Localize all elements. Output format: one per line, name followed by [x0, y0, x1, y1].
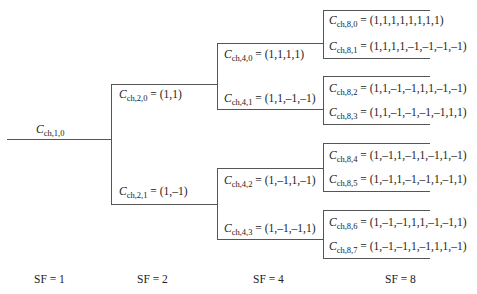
code-value: = (1,–1,–1,1,–1,1,1,–1): [357, 240, 466, 252]
code-label-ch-8-6: Cch,8,6 = (1,–1,–1,1,1,–1,–1,1): [329, 215, 466, 233]
branch-line-ch-8-0: [323, 10, 430, 11]
code-value: = (1,1,–1,–1,–1,–1,1,1): [357, 106, 466, 118]
code-value: = (1,–1,1,–1,1,–1,1,–1): [357, 149, 466, 161]
code-value: = (1,–1): [147, 185, 187, 197]
code-value: = (1,–1,–1,1): [252, 222, 315, 234]
code-label-ch-2-0: Cch,2,0 = (1,1): [119, 87, 182, 105]
code-symbol: C: [224, 92, 232, 104]
code-subscript: ch,8,2: [337, 87, 358, 97]
code-symbol: C: [224, 48, 232, 60]
branch-line-ch-8-3: [323, 124, 430, 125]
code-label-ch-8-7: Cch,8,7 = (1,–1,–1,1,–1,1,1,–1): [329, 239, 466, 257]
split-line-sf2: [111, 84, 112, 205]
code-value: = (1,–1,1,–1,–1,1,–1,1): [357, 173, 466, 185]
code-label-ch-8-1: Cch,8,1 = (1,1,1,1,–1,–1,–1,–1): [329, 39, 466, 57]
branch-line-ch-8-6: [323, 210, 430, 211]
branch-line-ch-4-0: [217, 43, 323, 44]
branch-line-ch-4-3: [217, 239, 323, 240]
code-symbol: C: [36, 123, 44, 135]
branch-line-ch-8-4: [323, 143, 430, 144]
branch-line-ch-2-1: [111, 204, 217, 205]
code-symbol: C: [329, 40, 337, 52]
code-label-ch-8-2: Cch,8,2 = (1,1,–1,–1,1,1,–1,–1): [329, 81, 466, 99]
code-symbol: C: [119, 88, 127, 100]
code-subscript: ch,8,3: [337, 111, 358, 121]
code-value: = (1,–1,1,–1): [252, 174, 315, 186]
code-symbol: C: [329, 106, 337, 118]
code-symbol: C: [329, 82, 337, 94]
sf-label-4: SF = 4: [253, 273, 284, 285]
code-value: = (1,1,–1,–1,1,1,–1,–1): [357, 82, 466, 94]
code-label-ch-8-0: Cch,8,0 = (1,1,1,1,1,1,1,1): [329, 13, 443, 31]
code-value: = (1,–1,–1,1,1,–1,–1,1): [357, 216, 466, 228]
code-subscript: ch,2,1: [127, 190, 148, 200]
code-label-ch-1-0: Cch,1,0: [36, 122, 64, 140]
branch-line-ch-8-7: [323, 258, 430, 259]
code-value: = (1,1,–1,–1): [252, 92, 315, 104]
code-value: = (1,1): [147, 88, 181, 100]
code-label-ch-4-1: Cch,4,1 = (1,1,–1,–1): [224, 91, 315, 109]
code-label-ch-8-5: Cch,8,5 = (1,–1,1,–1,–1,1,–1,1): [329, 172, 466, 190]
code-subscript: ch,8,7: [337, 245, 358, 255]
split-line-sf4-a: [217, 43, 218, 110]
branch-line-ch-8-2: [323, 76, 430, 77]
code-symbol: C: [329, 240, 337, 252]
sf-label-2: SF = 2: [137, 273, 168, 285]
code-symbol: C: [329, 173, 337, 185]
code-symbol: C: [329, 216, 337, 228]
code-subscript: ch,4,0: [232, 53, 253, 63]
code-value: = (1,1,1,1,1,1,1,1): [357, 14, 443, 26]
code-subscript: ch,8,5: [337, 178, 358, 188]
code-label-ch-8-3: Cch,8,3 = (1,1,–1,–1,–1,–1,1,1): [329, 105, 466, 123]
code-subscript: ch,1,0: [44, 128, 65, 138]
code-subscript: ch,4,1: [232, 97, 253, 107]
split-line-sf8-b: [323, 76, 324, 125]
branch-line-ch-4-2: [217, 168, 323, 169]
code-label-ch-4-0: Cch,4,0 = (1,1,1,1): [224, 47, 304, 65]
branch-line-ch-8-5: [323, 191, 430, 192]
split-line-sf8-a: [323, 10, 324, 59]
code-value: = (1,1,1,1): [252, 48, 304, 60]
code-value: = (1,1,1,1,–1,–1,–1,–1): [357, 40, 466, 52]
code-subscript: ch,4,2: [232, 179, 253, 189]
code-subscript: ch,8,1: [337, 45, 358, 55]
code-label-ch-8-4: Cch,8,4 = (1,–1,1,–1,1,–1,1,–1): [329, 148, 466, 166]
code-subscript: ch,2,0: [127, 93, 148, 103]
code-symbol: C: [329, 14, 337, 26]
code-subscript: ch,8,4: [337, 154, 358, 164]
code-label-ch-2-1: Cch,2,1 = (1,–1): [119, 184, 187, 202]
code-label-ch-4-3: Cch,4,3 = (1,–1,–1,1): [224, 221, 315, 239]
code-symbol: C: [224, 174, 232, 186]
code-symbol: C: [119, 185, 127, 197]
code-subscript: ch,8,6: [337, 221, 358, 231]
code-subscript: ch,4,3: [232, 227, 253, 237]
split-line-sf4-b: [217, 168, 218, 240]
branch-line-ch-4-1: [217, 109, 323, 110]
split-line-sf8-c: [323, 143, 324, 192]
code-subscript: ch,8,0: [337, 19, 358, 29]
code-label-ch-4-2: Cch,4,2 = (1,–1,1,–1): [224, 173, 315, 191]
branch-line-ch-2-0: [111, 84, 217, 85]
branch-line-ch-8-1: [323, 58, 430, 59]
split-line-sf8-d: [323, 210, 324, 259]
sf-label-1: SF = 1: [34, 273, 65, 285]
sf-label-8: SF = 8: [385, 273, 416, 285]
code-symbol: C: [224, 222, 232, 234]
code-symbol: C: [329, 149, 337, 161]
